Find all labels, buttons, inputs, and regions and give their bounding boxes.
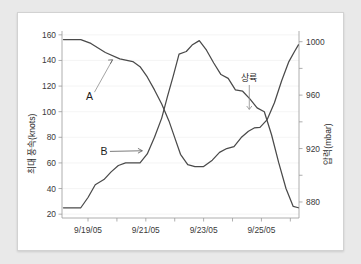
x-tick-group: 9/19/059/21/059/23/059/25/05 [74, 218, 290, 235]
x-tick-label: 9/25/05 [247, 225, 275, 235]
x-tick-label: 9/23/05 [190, 225, 218, 235]
typhoon-line-chart: 9/19/059/21/059/23/059/25/05 20406080100… [18, 13, 345, 252]
y-tick-label: 60 [47, 158, 57, 168]
x-tick-label: 9/21/05 [132, 225, 160, 235]
y-tick-label: 100 [42, 107, 56, 117]
y2-tick-label: 960 [306, 90, 320, 100]
series-a-label: A [86, 90, 93, 102]
y-tick-label: 20 [47, 209, 57, 219]
y-tick-label: 120 [42, 81, 56, 91]
series-b-label: B [100, 145, 107, 157]
y-left-tick-group: 20406080100120140160 [42, 30, 62, 219]
y2-tick-label: 880 [306, 197, 320, 207]
y-tick-label: 160 [42, 30, 56, 40]
y-axis-title-left: 최대 풍속(knots) [27, 114, 37, 175]
chart-plot-area: 9/19/059/21/059/23/059/25/05 20406080100… [18, 13, 345, 252]
y-tick-label: 40 [47, 184, 57, 194]
chart-card: 9/19/059/21/059/23/059/25/05 20406080100… [17, 12, 344, 251]
series-line-a [63, 40, 298, 167]
y-tick-label: 140 [42, 55, 56, 65]
y-tick-label: 80 [47, 132, 57, 142]
y2-tick-label: 1000 [306, 37, 325, 47]
series-group [63, 40, 298, 208]
landfall-label: 상륙 [241, 73, 257, 83]
series-b-leader-line [110, 151, 142, 152]
annotation-group: 상륙AB [86, 60, 257, 157]
series-a-leader-line [94, 60, 112, 92]
y2-tick-label: 920 [306, 144, 320, 154]
y-axis-title-right: 압력(mbar) [322, 123, 333, 164]
x-tick-label: 9/19/05 [74, 225, 102, 235]
page-root: 9/19/059/21/059/23/059/25/05 20406080100… [0, 0, 361, 264]
y-right-tick-group: 8809209601000 [299, 37, 325, 207]
